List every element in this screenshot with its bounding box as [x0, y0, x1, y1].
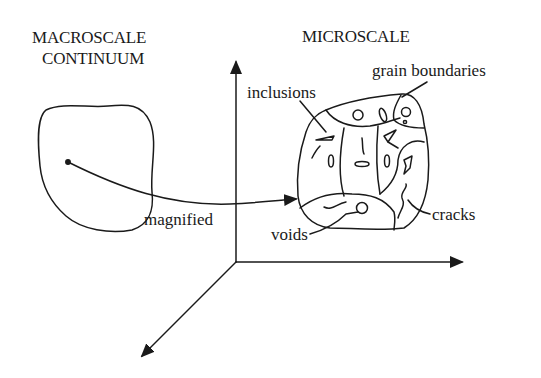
voids-label: voids	[271, 226, 308, 243]
inclusion-triangle	[384, 130, 396, 142]
macroscale-title: MACROSCALE	[32, 29, 146, 46]
grain-boundaries-leader	[402, 82, 427, 97]
ellipse-grain	[378, 107, 388, 122]
void	[402, 108, 411, 117]
crack	[324, 202, 346, 208]
grain-boundaries-label: grain boundaries	[372, 62, 486, 79]
magnified-arrow	[68, 162, 296, 204]
ellipse-grain	[329, 155, 334, 167]
microstructure	[297, 94, 428, 230]
figure-macro-to-micro: MACROSCALE CONTINUUM MICROSCALE grain bo…	[0, 0, 541, 378]
microscale-title: MICROSCALE	[302, 28, 410, 45]
crack	[312, 146, 320, 158]
inclusions-label: inclusions	[247, 84, 316, 101]
voids-leader	[310, 212, 358, 234]
depth-axis-arrow	[142, 262, 236, 356]
grain-boundary	[340, 128, 344, 196]
inclusion-triangle	[316, 136, 334, 140]
cracks-label: cracks	[432, 206, 475, 223]
grain-boundary	[300, 194, 395, 230]
macroscale-continuum-blob	[38, 105, 153, 231]
crack	[404, 156, 412, 174]
magnified-label: magnified	[144, 211, 213, 228]
ellipse-grain	[355, 162, 369, 167]
grain-boundary	[377, 126, 380, 194]
ellipse-grain	[385, 155, 390, 167]
void	[403, 120, 406, 123]
grain-boundary	[393, 95, 424, 128]
continuum-title: CONTINUUM	[42, 50, 144, 67]
crack	[398, 184, 406, 218]
inclusions-leader	[300, 101, 326, 132]
void	[353, 110, 363, 120]
line-feature	[362, 138, 364, 154]
